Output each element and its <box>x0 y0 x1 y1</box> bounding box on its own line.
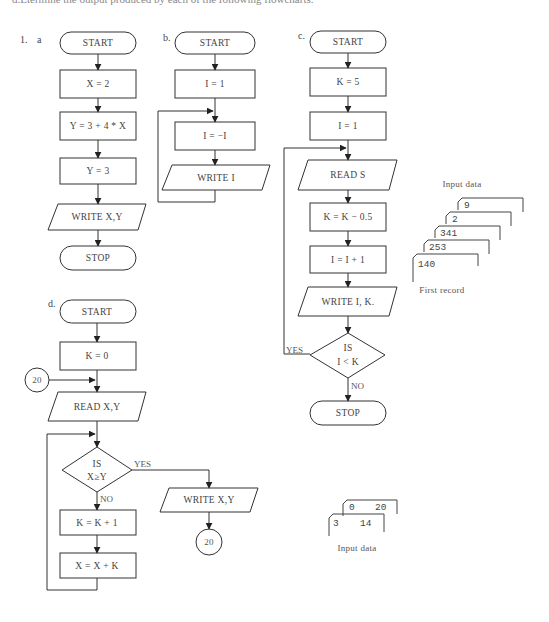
b-write-text: WRITE I <box>197 173 235 183</box>
d-input-caption: Input data <box>337 543 376 553</box>
c-card-1: 9 <box>464 200 470 211</box>
a-step-x-text: X = 2 <box>86 79 109 89</box>
a-label: a <box>37 34 41 45</box>
d-connector-out-text: 20 <box>204 537 214 547</box>
d-step-k0-text: K = 0 <box>85 351 108 361</box>
d-step-xinc-text: X = X + K <box>75 561 119 571</box>
b-loop-back <box>158 111 215 202</box>
d-card-1-b: 20 <box>375 502 386 513</box>
d-card-1-a: 0 <box>349 502 355 513</box>
c-read-text: READ S <box>330 170 365 180</box>
a-stop-text: STOP <box>86 253 110 263</box>
b-step-neg-text: I = −I <box>203 131 227 141</box>
a-start-text: START <box>83 38 113 48</box>
c-first-record-caption: First record <box>419 285 464 295</box>
flowchart-c <box>284 31 523 425</box>
d-decision-line2: X≥Y <box>87 472 107 482</box>
d-write-text: WRITE X,Y <box>183 495 234 505</box>
d-decision-line1: IS <box>92 459 101 469</box>
c-write-text: WRITE I, K. <box>322 297 375 307</box>
c-card-2: 2 <box>452 214 458 225</box>
c-step-k-text: K = 5 <box>336 77 359 87</box>
d-read-text: READ X,Y <box>74 402 121 412</box>
c-input-caption: Input data <box>442 179 481 189</box>
c-stop-text: STOP <box>336 408 360 418</box>
a-write-text: WRITE X,Y <box>71 212 122 222</box>
d-decision <box>62 447 132 492</box>
c-step-iinc-text: I = I + 1 <box>331 255 365 265</box>
d-no-label: NO <box>100 494 113 504</box>
c-decision <box>310 333 385 378</box>
flowchart-a <box>48 32 146 270</box>
a-step-y1-text: Y = 3 + 4 * X <box>70 121 126 131</box>
d-card-2-a: 3 <box>333 518 339 529</box>
b-step-i1-text: I = 1 <box>205 79 225 89</box>
problem-number: 1. <box>20 34 28 45</box>
c-card-5: 140 <box>418 259 435 270</box>
c-start-text: START <box>333 37 363 47</box>
b-label: b. <box>163 32 171 43</box>
c-step-i-text: I = 1 <box>338 121 358 131</box>
c-decision-line2: I < K <box>337 357 359 367</box>
d-connector-in-text: 20 <box>32 375 42 385</box>
c-decision-line1: IS <box>343 343 352 353</box>
c-yes-label: YES <box>286 345 303 355</box>
d-yes-label: YES <box>134 459 151 469</box>
a-step-y2-text: Y = 3 <box>87 166 110 176</box>
b-start-text: START <box>200 38 230 48</box>
c-step-kdec-text: K = K − 0.5 <box>323 212 372 222</box>
c-no-label: NO <box>351 381 364 391</box>
d-card-2-b: 14 <box>360 518 371 529</box>
c-card-4: 253 <box>429 242 446 253</box>
c-label: c. <box>298 30 305 41</box>
d-start-text: START <box>82 307 112 317</box>
d-label: d. <box>48 298 56 309</box>
d-step-kinc-text: K = K + 1 <box>76 518 117 528</box>
c-card-3: 341 <box>440 228 457 239</box>
